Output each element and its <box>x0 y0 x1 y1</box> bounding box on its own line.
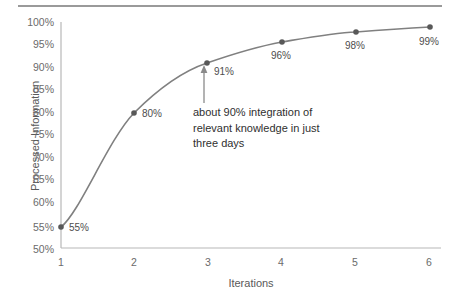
chart-annotation: about 90% integration of relevant knowle… <box>193 105 373 152</box>
data-point-label: 99% <box>419 36 439 47</box>
data-point-label: 80% <box>142 108 162 119</box>
data-point-marker <box>204 60 210 66</box>
data-point-marker <box>131 110 137 116</box>
data-point-label: 98% <box>345 40 365 51</box>
annotation-arrow-head <box>201 65 208 73</box>
data-point-marker <box>427 24 433 30</box>
data-point-marker <box>353 29 359 35</box>
annotation-line: about 90% integration of <box>193 105 373 121</box>
data-point-label: 91% <box>214 66 234 77</box>
chart-figure: Processed Information Iterations 100% 95… <box>0 0 452 301</box>
data-point-marker <box>279 39 285 45</box>
data-point-label: 55% <box>69 222 89 233</box>
annotation-line: relevant knowledge in just <box>193 121 373 137</box>
annotation-line: three days <box>193 136 373 152</box>
data-point-marker <box>58 224 64 230</box>
data-point-label: 96% <box>271 50 291 61</box>
